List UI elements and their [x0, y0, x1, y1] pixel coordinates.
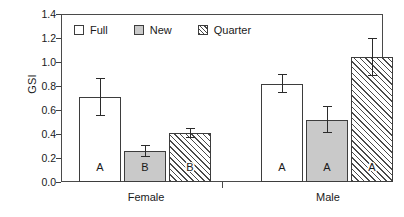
error-bar-stem — [100, 78, 101, 116]
legend-swatch-quarter-icon — [198, 25, 208, 35]
legend-label-new: New — [150, 24, 172, 36]
error-bar-cap-bottom — [96, 115, 105, 116]
error-bar-cap-bottom — [141, 156, 150, 157]
error-bar-stem — [282, 74, 283, 93]
bar-group-letter: A — [80, 161, 120, 173]
y-axis-tick-label: 0.2 — [30, 152, 56, 164]
y-axis-tick-labels: 1.41.21.00.80.60.40.20.0 — [26, 0, 56, 217]
error-bar-cap-top — [96, 78, 105, 79]
error-bar-female-new — [141, 145, 150, 157]
bar-group-letter: B — [170, 161, 210, 173]
plot-area: ABBAAA — [61, 14, 383, 182]
legend-entry-new: New — [134, 24, 172, 36]
legend-label-full: Full — [90, 24, 108, 36]
legend-entry-full: Full — [74, 24, 108, 36]
error-bar-cap-top — [141, 145, 150, 146]
x-axis-tick-label-female: Female — [128, 191, 165, 203]
chart-legend: FullNewQuarter — [74, 24, 251, 36]
bar-female-quarter: B — [169, 133, 211, 182]
legend-label-quarter: Quarter — [214, 24, 251, 36]
y-axis-tick-label: 1.2 — [30, 32, 56, 44]
y-axis-tick-label: 1.4 — [30, 8, 56, 20]
error-bar-male-new — [323, 106, 332, 132]
error-bar-stem — [327, 106, 328, 132]
bar-group-letter: A — [352, 161, 392, 173]
x-axis-tick-label-male: Male — [316, 191, 340, 203]
error-bar-male-full — [278, 74, 287, 93]
error-bar-cap-top — [278, 74, 287, 75]
y-axis-tick-label: 1.0 — [30, 56, 56, 68]
legend-swatch-full-icon — [74, 25, 84, 35]
bar-group-letter: A — [262, 161, 302, 173]
gsi-bar-chart: GSI 1.41.21.00.80.60.40.20.0 ABBAAA Fema… — [0, 0, 404, 217]
legend-swatch-new-icon — [134, 25, 144, 35]
error-bar-cap-bottom — [368, 75, 377, 76]
legend-entry-quarter: Quarter — [198, 24, 251, 36]
y-axis-tick-label: 0.4 — [30, 128, 56, 140]
bar-group-letter: A — [307, 161, 347, 173]
y-axis-tick-label: 0.6 — [30, 104, 56, 116]
bar-group-letter: B — [125, 161, 165, 173]
group-separator-tick — [222, 182, 223, 188]
error-bar-cap-top — [368, 38, 377, 39]
y-axis-tick-mark — [56, 182, 61, 183]
bar-male-full: A — [261, 84, 303, 182]
y-axis-tick-label: 0.0 — [30, 176, 56, 188]
error-bar-stem — [372, 38, 373, 76]
error-bar-cap-bottom — [186, 137, 195, 138]
error-bar-male-quarter — [368, 38, 377, 76]
error-bar-female-full — [96, 78, 105, 116]
error-bar-cap-top — [186, 128, 195, 129]
error-bar-female-quarter — [186, 128, 195, 138]
error-bar-cap-top — [323, 106, 332, 107]
error-bar-cap-bottom — [278, 92, 287, 93]
error-bar-cap-bottom — [323, 132, 332, 133]
y-axis-tick-label: 0.8 — [30, 80, 56, 92]
